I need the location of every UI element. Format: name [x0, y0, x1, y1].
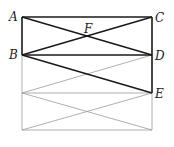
label-c: C	[155, 11, 164, 25]
geometry-diagram: A B C D E F	[0, 0, 174, 147]
label-e: E	[154, 87, 164, 101]
label-a: A	[8, 10, 18, 24]
label-f: F	[83, 22, 93, 36]
thin-lines	[22, 55, 152, 130]
label-b: B	[8, 48, 18, 62]
label-d: D	[154, 49, 165, 63]
